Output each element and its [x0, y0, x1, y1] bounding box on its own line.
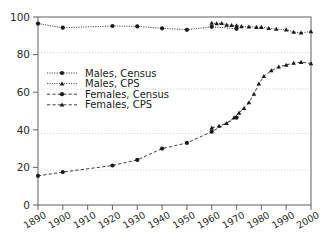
y-axis-tick-label: 20	[17, 161, 30, 173]
y-axis-tick-label: 100	[10, 11, 30, 23]
line-chart: 020406080100 189019001910192019301940195…	[0, 0, 325, 237]
x-axis-tick-label: 1980	[245, 209, 271, 231]
data-series-layer	[36, 21, 313, 178]
data-point-marker	[61, 170, 65, 174]
data-point-marker	[269, 68, 274, 72]
data-point-marker	[284, 27, 289, 31]
y-axis-tick-label: 60	[17, 86, 30, 98]
legend-item-3: Females, Census	[47, 89, 169, 100]
chart-figure: 020406080100 189019001910192019301940195…	[0, 0, 325, 237]
data-point-marker	[160, 26, 164, 30]
data-point-marker	[257, 81, 262, 85]
x-axis-tick-label: 2000	[295, 209, 321, 231]
data-point-marker	[61, 26, 65, 30]
x-axis-tick-label: 1890	[22, 209, 48, 231]
x-axis-tick-label: 1900	[46, 209, 72, 231]
data-point-marker	[135, 158, 139, 162]
legend-label: Males, Census	[85, 68, 156, 79]
plot-frame	[38, 17, 311, 205]
legend-label: Females, Census	[85, 89, 169, 100]
data-point-marker	[185, 28, 189, 32]
y-axis-tick-label: 40	[17, 124, 30, 136]
data-point-marker	[217, 124, 222, 128]
x-axis-tick-label: 1950	[170, 209, 196, 231]
data-point-marker	[276, 65, 281, 69]
x-axis-tick-label: 1910	[71, 209, 97, 231]
data-point-marker	[252, 92, 257, 96]
x-axis-tick-label: 1930	[121, 209, 147, 231]
x-axis-tick-label: 1940	[146, 209, 172, 231]
data-point-marker	[60, 81, 65, 85]
data-point-marker	[60, 92, 64, 96]
data-point-marker	[210, 130, 214, 134]
legend-item-4: Females, CPS	[47, 99, 152, 110]
data-point-marker	[36, 21, 40, 25]
x-axis-tick-label: 1990	[270, 209, 296, 231]
data-point-marker	[247, 100, 252, 104]
legend-item-1: Males, Census	[47, 68, 156, 79]
data-point-marker	[110, 24, 114, 28]
y-axis-tick-label: 80	[17, 48, 30, 60]
legend-label: Females, CPS	[85, 99, 152, 110]
data-point-marker	[36, 174, 40, 178]
data-point-marker	[309, 29, 314, 33]
series-3	[36, 115, 239, 177]
legend-item-2: Males, CPS	[47, 78, 140, 89]
data-point-marker	[160, 147, 164, 151]
data-point-marker	[234, 23, 239, 27]
y-axis-tick-label: 0	[23, 199, 30, 211]
series-1	[36, 21, 239, 31]
legend-label: Males, CPS	[85, 78, 140, 89]
data-point-marker	[60, 71, 64, 75]
x-axis: 1890190019101920193019401950196019701980…	[22, 205, 321, 231]
x-axis-tick-label: 1920	[96, 209, 122, 231]
data-point-marker	[210, 25, 214, 29]
series-4	[209, 60, 313, 130]
plot-gridlines	[38, 53, 311, 171]
data-point-marker	[209, 21, 214, 25]
data-point-marker	[185, 141, 189, 145]
data-point-marker	[110, 163, 114, 167]
series-line	[38, 118, 237, 176]
data-point-marker	[219, 21, 224, 25]
data-point-marker	[299, 60, 304, 64]
x-axis-tick-label: 1960	[195, 209, 221, 231]
data-point-marker	[135, 24, 139, 28]
x-axis-tick-label: 1970	[220, 209, 246, 231]
series-line	[212, 62, 311, 128]
y-axis: 020406080100	[10, 11, 38, 211]
